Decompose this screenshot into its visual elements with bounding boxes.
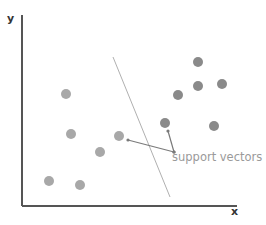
data-point [44, 176, 54, 186]
data-point [160, 118, 170, 128]
data-point [75, 180, 85, 190]
data-point [173, 90, 183, 100]
data-point [114, 131, 124, 141]
support-vector-arrow [168, 131, 174, 152]
arrow-head [126, 138, 129, 141]
data-point [193, 57, 203, 67]
data-point [61, 89, 71, 99]
data-point [66, 129, 76, 139]
hyperplane [113, 57, 170, 197]
svm-diagram [0, 0, 266, 225]
data-point [95, 147, 105, 157]
class-a-points [44, 89, 124, 190]
separating-hyperplane [113, 57, 170, 197]
arrow-head [166, 129, 169, 132]
axes [22, 15, 237, 206]
data-point [209, 121, 219, 131]
x-axis-label: x [231, 205, 238, 218]
class-b-points [160, 57, 227, 131]
data-point [217, 79, 227, 89]
data-point [193, 81, 203, 91]
y-axis-label: y [7, 12, 14, 25]
support-vectors-label: support vectors [172, 150, 262, 164]
